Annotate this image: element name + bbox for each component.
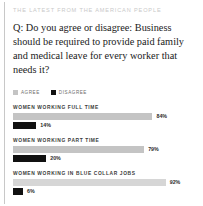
- bar-group-title: WOMEN WORKING FULL TIME: [13, 105, 203, 110]
- legend-item-agree: AGREE: [13, 90, 40, 95]
- bar-value-disagree: 6%: [27, 188, 35, 195]
- card-content: THE LATEST FROM THE AMERICAN PEOPLE Q: D…: [13, 0, 203, 206]
- bar-row-agree: 92%: [13, 179, 203, 186]
- bar-agree: [13, 113, 152, 120]
- bar-agree: [13, 146, 144, 153]
- bar-disagree: [13, 155, 46, 162]
- bar-value-agree: 84%: [156, 113, 167, 120]
- legend-item-disagree: DISAGREE: [51, 90, 87, 95]
- bar-row-disagree: 6%: [13, 188, 203, 195]
- bar-agree: [13, 179, 166, 186]
- bar-row-agree: 79%: [13, 146, 203, 153]
- bar-disagree: [13, 122, 36, 129]
- legend-label-disagree: DISAGREE: [59, 90, 87, 95]
- bar-group: WOMEN WORKING PART TIME 79% 20%: [13, 138, 203, 162]
- legend-label-agree: AGREE: [21, 90, 40, 95]
- bar-group-title: WOMEN WORKING IN BLUE COLLAR JOBS: [13, 171, 203, 176]
- legend-swatch-agree-icon: [13, 90, 18, 95]
- bar-group: WOMEN WORKING FULL TIME 84% 14%: [13, 105, 203, 129]
- bar-row-agree: 84%: [13, 113, 203, 120]
- poll-card: THE LATEST FROM THE AMERICAN PEOPLE Q: D…: [0, 0, 203, 206]
- left-rule-divider: [4, 2, 5, 204]
- bar-value-agree: 92%: [170, 179, 181, 186]
- bar-row-disagree: 14%: [13, 122, 203, 129]
- bar-value-agree: 79%: [148, 146, 159, 153]
- bar-group: WOMEN WORKING IN BLUE COLLAR JOBS 92% 6%: [13, 171, 203, 195]
- bar-disagree: [13, 188, 23, 195]
- bar-group-title: WOMEN WORKING PART TIME: [13, 138, 203, 143]
- legend-swatch-disagree-icon: [51, 90, 56, 95]
- kicker-label: THE LATEST FROM THE AMERICAN PEOPLE: [13, 7, 203, 13]
- bar-row-disagree: 20%: [13, 155, 203, 162]
- chart-legend: AGREE DISAGREE: [13, 88, 203, 96]
- poll-question: Q: Do you agree or disagree: Business sh…: [13, 21, 193, 77]
- bar-value-disagree: 14%: [40, 122, 51, 129]
- bar-value-disagree: 20%: [50, 155, 61, 162]
